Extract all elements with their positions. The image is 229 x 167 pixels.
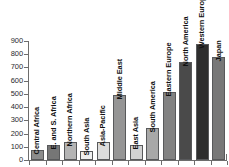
bar-category-label: E. and S. Africa [49,97,56,150]
bar-category-label: Northern Africa [66,93,73,146]
bar-category-label: North America [181,17,188,67]
bar-category-label: Central Africa [33,107,40,155]
bar-category-label: South Asia [82,117,89,155]
bar-category-label: Eastern Europe [165,42,172,96]
y-axis-tick-label: 300 [11,116,23,123]
y-axis-tick-label: 200 [11,130,23,137]
y-axis-tick-label: 100 [11,143,23,150]
bar-category-label: Japan [214,40,221,61]
bar-labels-container: Central AfricaE. and S. AfricaNorthern A… [29,0,229,167]
y-axis-tick-label: 500 [11,90,23,97]
bar-category-label: East Asia [132,117,139,150]
y-axis-tick-label: 400 [11,103,23,110]
y-axis-tick-label: 800 [11,50,23,57]
bar-category-label: Asia-Pacific [99,105,106,146]
y-axis-tick-label: 0 [19,156,23,163]
y-axis-tick-label: 700 [11,63,23,70]
y-axis-tick-label: 900 [11,37,23,44]
bar-category-label: Middle East [115,59,122,100]
bar-category-label: South America [148,81,155,132]
y-axis-tick-labels: 0100200300400500600700800900 [0,0,23,167]
bar-category-label: Western Europe [198,0,205,48]
y-axis-tick-label: 600 [11,77,23,84]
bar-chart: 0100200300400500600700800900 Central Afr… [0,0,229,167]
